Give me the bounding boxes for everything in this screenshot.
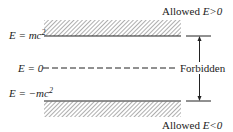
- forbidden-label: Forbidden: [180, 62, 226, 74]
- mc2-label: E = mc2: [8, 28, 45, 41]
- allowed-positive-label: Allowed E>0: [162, 5, 223, 17]
- zero-label: E = 0: [17, 62, 44, 74]
- arrow-up-icon: [198, 36, 202, 41]
- positive-energy-band: [44, 20, 181, 36]
- minus-mc2-label: E = −mc2: [8, 86, 53, 99]
- negative-energy-band: [44, 101, 181, 117]
- energy-level-diagram: Allowed E>0 E = mc2 E = 0 Forbidden E = …: [0, 0, 233, 132]
- allowed-negative-label: Allowed E<0: [162, 119, 223, 131]
- arrow-down-icon: [198, 96, 202, 101]
